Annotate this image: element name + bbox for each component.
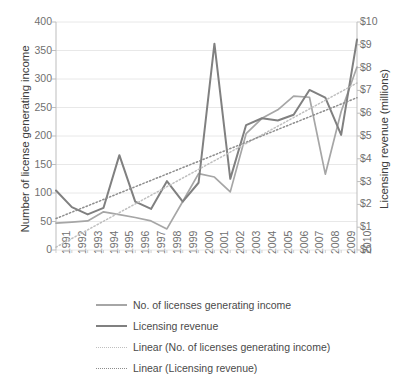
chart-legend: No. of licenses generating incomeLicensi… <box>0 296 406 386</box>
legend-label: Linear (Licensing revenue) <box>133 362 257 374</box>
chart-figure: Number of license generating income Lice… <box>0 0 406 386</box>
legend-item[interactable]: Linear (No. of licenses generating incom… <box>96 338 330 356</box>
legend-swatch <box>96 368 127 369</box>
series-line-1 <box>56 40 357 215</box>
legend-swatch <box>96 325 127 327</box>
legend-label: Licensing revenue <box>133 320 218 332</box>
legend-swatch <box>96 304 127 306</box>
legend-label: No. of licenses generating income <box>133 299 291 311</box>
legend-item[interactable]: No. of licenses generating income <box>96 296 291 314</box>
legend-swatch <box>96 347 127 348</box>
legend-label: Linear (No. of licenses generating incom… <box>133 341 330 353</box>
legend-item[interactable]: Linear (Licensing revenue) <box>96 359 257 377</box>
legend-item[interactable]: Licensing revenue <box>96 317 218 335</box>
